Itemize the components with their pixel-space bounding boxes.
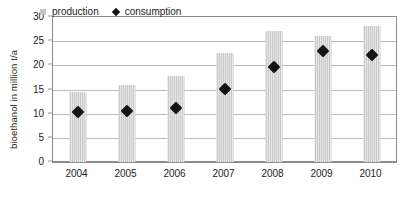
bar-production — [69, 92, 86, 162]
y-axis-tick-label: 10 — [33, 107, 44, 118]
x-axis-tick-label: 2004 — [65, 168, 87, 179]
y-axis-tick-label: 20 — [33, 59, 44, 70]
x-axis-tick-label: 2005 — [114, 168, 136, 179]
bar-production — [118, 85, 135, 162]
y-axis-tick-label: 15 — [33, 83, 44, 94]
bar-production — [363, 26, 380, 162]
x-axis-tick-label: 2007 — [212, 168, 234, 179]
x-axis-tick-label: 2008 — [261, 168, 283, 179]
x-axis-tick-label: 2009 — [310, 168, 332, 179]
bar-production — [167, 76, 184, 162]
x-axis-tick-label: 2010 — [359, 168, 381, 179]
y-axis-tick-label: 25 — [33, 35, 44, 46]
gridline — [53, 41, 396, 42]
y-axis-title-text: bioethanol in million t/a — [9, 50, 20, 149]
bioethanol-chart-figure: bioethanol in million t/a 051015202530 p… — [0, 0, 405, 199]
y-axis-tick-label: 0 — [38, 156, 44, 167]
legend-label-consumption: consumption — [125, 6, 182, 17]
legend-item-production: production — [40, 6, 99, 17]
square-swatch-icon — [40, 9, 46, 15]
x-axis-tick-label: 2006 — [163, 168, 185, 179]
y-axis-tick-label: 5 — [38, 131, 44, 142]
y-axis-title: bioethanol in million t/a — [6, 0, 22, 199]
legend-item-consumption: consumption — [113, 6, 182, 17]
diamond-swatch-icon — [111, 7, 119, 15]
plot-area — [52, 16, 397, 163]
chart-legend: production consumption — [40, 6, 181, 17]
bar-production — [265, 31, 282, 162]
y-axis-ticks: 051015202530 — [22, 16, 48, 163]
bar-production — [216, 53, 233, 162]
legend-label-production: production — [52, 6, 99, 17]
x-axis-ticks: 2004200520062007200820092010 — [52, 165, 397, 185]
